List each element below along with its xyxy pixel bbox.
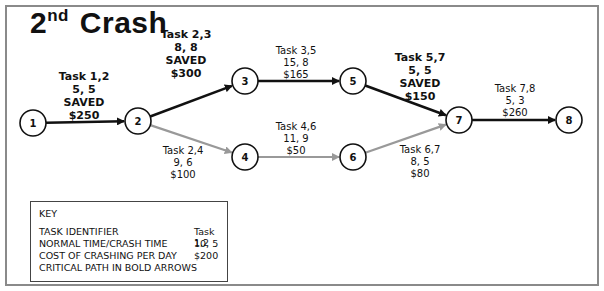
node-1: 1 xyxy=(20,110,46,136)
task-times: 5, 5 xyxy=(59,83,110,96)
key-value: 10, 5 xyxy=(194,238,218,249)
task-times: 8, 5 xyxy=(400,156,441,168)
key-label: CRITICAL PATH IN BOLD ARROWS xyxy=(39,262,197,273)
node-label: 2 xyxy=(135,116,142,127)
node-label: 7 xyxy=(456,115,463,126)
task-times: 9, 6 xyxy=(163,157,204,169)
node-label: 4 xyxy=(242,152,249,163)
edge-label-task-7-8: Task 7,8 5, 3 $260 xyxy=(495,83,536,119)
task-status: SAVED xyxy=(161,54,212,67)
edge-label-task-2-4: Task 2,4 9, 6 $100 xyxy=(163,145,204,181)
edge-label-task-2-3: Task 2,3 8, 8 SAVED $300 xyxy=(161,28,212,80)
task-cost: $80 xyxy=(400,168,441,180)
task-cost: $300 xyxy=(161,67,212,80)
task-cost: $250 xyxy=(59,109,110,122)
node-8: 8 xyxy=(556,107,582,133)
task-cost: $50 xyxy=(276,145,317,157)
task-times: 8, 8 xyxy=(161,41,212,54)
edge-label-task-6-7: Task 6,7 8, 5 $80 xyxy=(400,144,441,180)
edge-label-task-1-2: Task 1,2 5, 5 SAVED $250 xyxy=(59,70,110,122)
task-id: Task 1,2 xyxy=(59,70,110,83)
key-value: $200 xyxy=(194,250,218,261)
key-label: TASK IDENTIFIER xyxy=(39,226,119,237)
task-cost: $100 xyxy=(163,169,204,181)
node-label: 1 xyxy=(30,118,37,129)
task-cost: $150 xyxy=(395,90,446,103)
node-label: 8 xyxy=(566,115,573,126)
edge-label-task-4-6: Task 4,6 11, 9 $50 xyxy=(276,121,317,157)
task-cost: $260 xyxy=(495,107,536,119)
node-3: 3 xyxy=(232,68,258,94)
node-label: 5 xyxy=(350,76,357,87)
task-id: Task 6,7 xyxy=(400,144,441,156)
legend-key: KEY TASK IDENTIFIER Task 1,2 NORMAL TIME… xyxy=(30,201,228,282)
task-id: Task 2,4 xyxy=(163,145,204,157)
task-status: SAVED xyxy=(395,77,446,90)
task-id: Task 2,3 xyxy=(161,28,212,41)
node-label: 3 xyxy=(242,76,249,87)
task-times: 5, 5 xyxy=(395,64,446,77)
task-id: Task 4,6 xyxy=(276,121,317,133)
edge-label-task-5-7: Task 5,7 5, 5 SAVED $150 xyxy=(395,51,446,103)
task-id: Task 3,5 xyxy=(276,45,317,57)
task-cost: $165 xyxy=(276,69,317,81)
node-5: 5 xyxy=(340,68,366,94)
task-times: 15, 8 xyxy=(276,57,317,69)
task-status: SAVED xyxy=(59,96,110,109)
key-label: NORMAL TIME/CRASH TIME xyxy=(39,238,168,249)
arrow-task-2-3 xyxy=(150,86,232,117)
task-times: 5, 3 xyxy=(495,95,536,107)
node-4: 4 xyxy=(232,144,258,170)
node-6: 6 xyxy=(340,144,366,170)
node-7: 7 xyxy=(446,107,472,133)
key-title: KEY xyxy=(39,208,57,219)
task-times: 11, 9 xyxy=(276,133,317,145)
node-label: 6 xyxy=(350,152,357,163)
key-label: COST OF CRASHING PER DAY xyxy=(39,250,177,261)
node-2: 2 xyxy=(125,108,151,134)
edge-label-task-3-5: Task 3,5 15, 8 $165 xyxy=(276,45,317,81)
task-id: Task 7,8 xyxy=(495,83,536,95)
task-id: Task 5,7 xyxy=(395,51,446,64)
